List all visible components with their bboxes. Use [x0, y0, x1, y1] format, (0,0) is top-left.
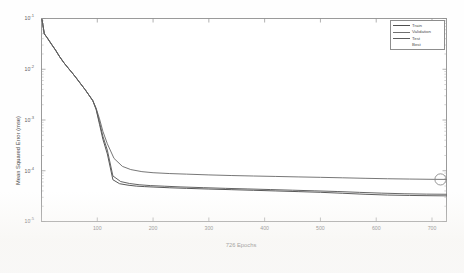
legend-label-test: Test [412, 36, 420, 43]
series-line-test [42, 20, 446, 195]
series-line-train [42, 20, 446, 196]
y-tick-label: 10-2 [14, 66, 34, 72]
y-tick-label: 10-5 [14, 218, 34, 224]
legend-item-test[interactable]: Test [393, 36, 442, 43]
series-curves [42, 20, 446, 196]
legend-label-train: Train [412, 23, 422, 30]
x-tick-label: 300 [197, 225, 221, 231]
x-tick-label: 200 [141, 225, 165, 231]
legend-swatch-best [393, 45, 410, 46]
legend-swatch-train [393, 25, 410, 26]
legend-swatch-test [393, 38, 410, 39]
major-tick-marks [42, 19, 447, 222]
x-tick-label: 600 [364, 225, 388, 231]
legend-swatch-validation [393, 32, 410, 33]
y-tick-label: 10-1 [14, 15, 34, 21]
legend-box: Train Validation Test Best [390, 20, 445, 50]
x-tick-label: 700 [420, 225, 444, 231]
y-axis-title: Mean Squared Error (mse) [15, 116, 21, 185]
x-tick-label: 500 [308, 225, 332, 231]
legend-item-train[interactable]: Train [393, 23, 442, 30]
training-performance-figure: 10-510-410-310-210-1 1002003004005006007… [0, 0, 464, 273]
legend-label-best: Best [412, 42, 421, 49]
series-line-validation [42, 20, 446, 180]
x-axis-title: 726 Epochs [141, 242, 341, 248]
legend-label-validation: Validation [412, 29, 431, 36]
x-tick-label: 100 [85, 225, 109, 231]
legend-item-best[interactable]: Best [393, 42, 442, 49]
x-tick-label: 400 [253, 225, 277, 231]
legend-item-validation[interactable]: Validation [393, 29, 442, 36]
